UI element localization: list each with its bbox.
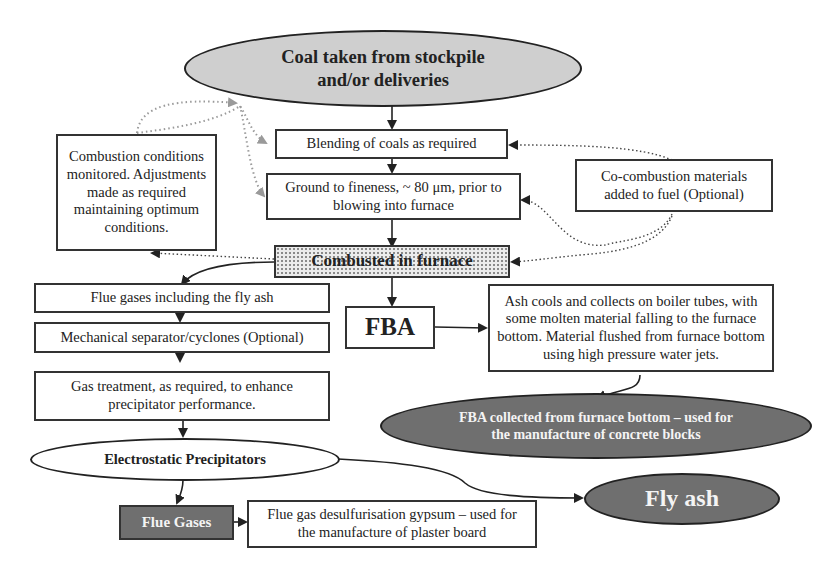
edge-monitoring-to-coal	[137, 102, 236, 133]
blending-box: Blending of coals as required	[275, 129, 508, 159]
flue-gases-fly-ash-label: Flue gases including the fly ash	[90, 289, 273, 307]
monitoring-label: Combustion conditions monitored. Adjustm…	[64, 148, 209, 236]
fgd-gypsum-box: Flue gas desulfurisation gypsum – used f…	[247, 500, 537, 548]
gas-treatment-label: Gas treatment, as required, to enhance p…	[56, 378, 308, 413]
esp-label: Electrostatic Precipitators	[104, 451, 266, 469]
edge-esp-to-fluegases	[177, 480, 183, 503]
fly-ash-ellipse: Fly ash	[584, 473, 780, 525]
coal-combustion-flowchart: Coal taken from stockpile and/or deliver…	[0, 0, 836, 579]
edge-monitoring-to-grinding	[240, 106, 264, 196]
edge-fba-to-ashcools	[435, 327, 486, 328]
ash-cools-box: Ash cools and collects on boiler tubes, …	[488, 284, 774, 372]
fgd-gypsum-label: Flue gas desulfurisation gypsum – used f…	[257, 506, 527, 541]
grinding-box: Ground to fineness, ~ 80 μm, prior to bl…	[266, 173, 521, 220]
coal-source-label: Coal taken from stockpile and/or deliver…	[256, 46, 510, 91]
flue-gases-box: Flue Gases	[119, 505, 234, 540]
fba-collected-ellipse: FBA collected from furnace bottom – used…	[380, 393, 812, 459]
flue-gases-label: Flue Gases	[142, 513, 212, 531]
fba-box: FBA	[345, 306, 435, 349]
ash-cools-label: Ash cools and collects on boiler tubes, …	[496, 293, 766, 364]
fba-collected-label: FBA collected from furnace bottom – used…	[452, 409, 740, 443]
fly-ash-label: Fly ash	[645, 484, 719, 513]
edge-cocombustion-to-blending	[510, 145, 672, 160]
furnace-label: Combusted in furnace	[311, 251, 473, 272]
esp-ellipse: Electrostatic Precipitators	[30, 438, 340, 481]
cocombustion-box: Co-combustion materials added to fuel (O…	[575, 159, 773, 212]
edge-furnace-to-flue	[182, 262, 274, 284]
cocombustion-label: Co-combustion materials added to fuel (O…	[589, 168, 759, 203]
fba-label: FBA	[365, 312, 415, 343]
gas-treatment-box: Gas treatment, as required, to enhance p…	[34, 371, 330, 421]
furnace-box: Combusted in furnace	[274, 245, 510, 278]
edge-cocombustion-to-furnace	[512, 216, 672, 262]
monitoring-box: Combustion conditions monitored. Adjustm…	[56, 134, 217, 251]
cyclones-box: Mechanical separator/cyclones (Optional)	[34, 322, 330, 353]
edge-esp-to-flyash	[338, 459, 582, 498]
coal-source-ellipse: Coal taken from stockpile and/or deliver…	[184, 30, 582, 107]
cyclones-label: Mechanical separator/cyclones (Optional)	[60, 329, 303, 347]
edge-furnace-to-monitoring	[152, 253, 274, 259]
grinding-label: Ground to fineness, ~ 80 μm, prior to bl…	[276, 179, 511, 214]
flue-gases-fly-ash-box: Flue gases including the fly ash	[34, 283, 330, 313]
blending-label: Blending of coals as required	[307, 135, 477, 153]
